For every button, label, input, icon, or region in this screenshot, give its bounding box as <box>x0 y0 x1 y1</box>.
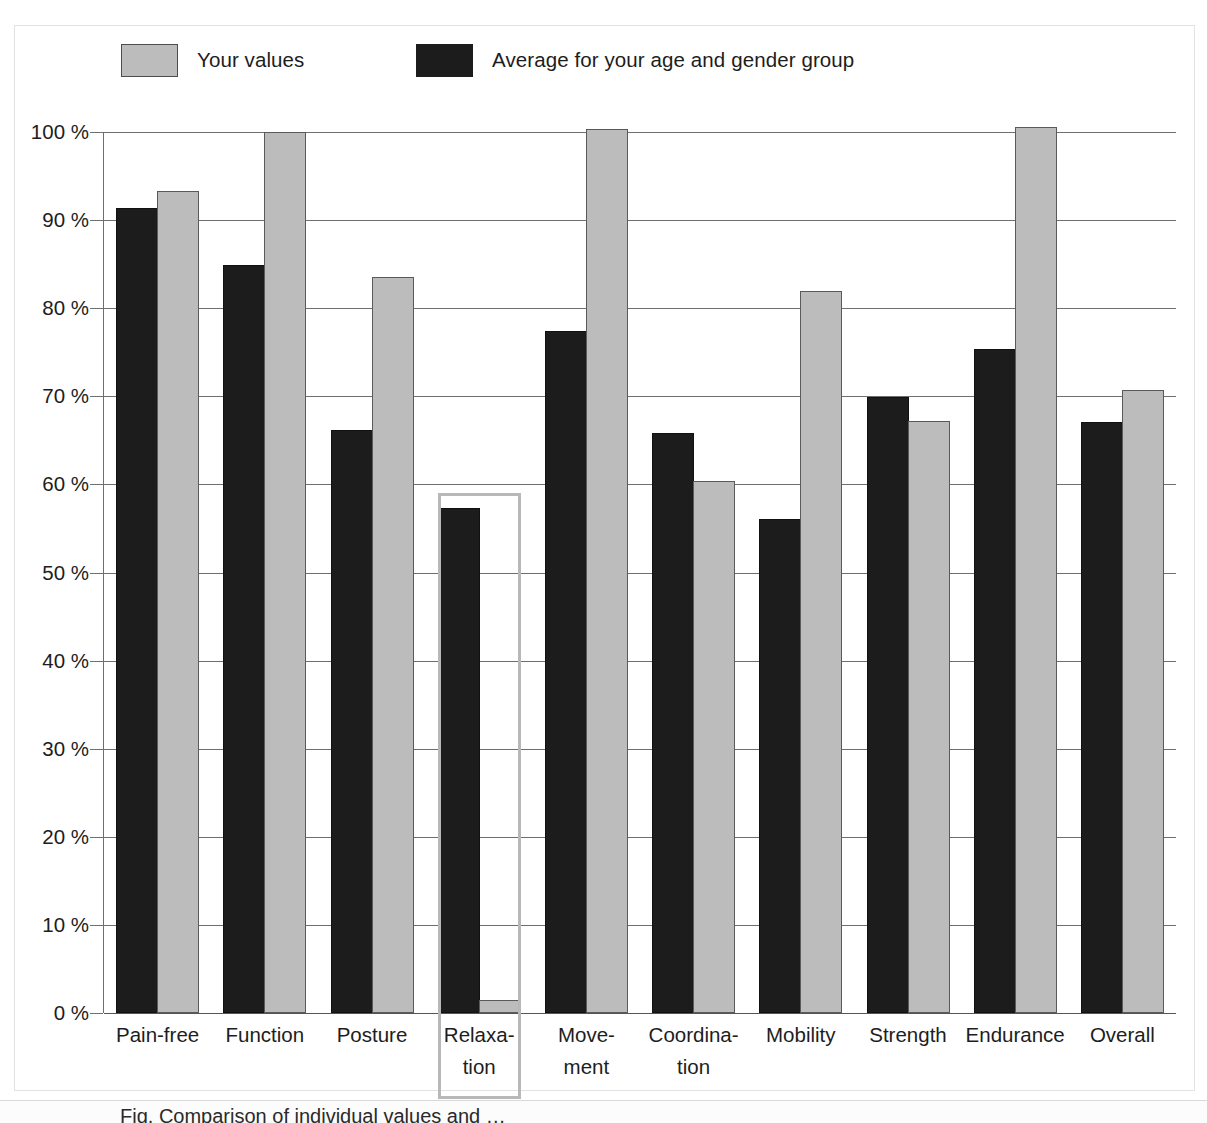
y-tick-mark-100 <box>90 132 103 133</box>
y-tick-label-0: 0 % <box>9 1001 89 1025</box>
x-tick-label-painfree: Pain-free <box>104 1019 211 1051</box>
y-tick-label-30: 30 % <box>9 737 89 761</box>
bar-movement-average <box>545 331 587 1013</box>
y-tick-mark-0 <box>90 1013 103 1014</box>
caption-strip: Fig. Comparison of individual values and… <box>0 1100 1207 1123</box>
x-tick-label-movement: Move- ment <box>533 1019 640 1083</box>
x-tick-label-mobility: Mobility <box>747 1019 854 1051</box>
legend-swatch-black-icon <box>416 44 473 77</box>
bar-mobility-your <box>800 291 842 1013</box>
chart-figure: Your values Average for your age and gen… <box>14 25 1195 1091</box>
y-tick-mark-30 <box>90 749 103 750</box>
chart-legend: Your values Average for your age and gen… <box>15 26 1194 92</box>
legend-label-your-values: Your values <box>197 48 304 72</box>
bar-mobility-average <box>759 519 801 1013</box>
y-tick-mark-70 <box>90 396 103 397</box>
legend-label-average: Average for your age and gender group <box>492 48 854 72</box>
y-tick-label-20: 20 % <box>9 825 89 849</box>
y-tick-label-40: 40 % <box>9 649 89 673</box>
x-tick-label-function: Function <box>211 1019 318 1051</box>
bar-function-your <box>264 132 306 1013</box>
bar-painfree-average <box>116 208 158 1013</box>
y-tick-label-50: 50 % <box>9 561 89 585</box>
y-tick-mark-40 <box>90 661 103 662</box>
bar-posture-average <box>331 430 373 1013</box>
bar-posture-your <box>372 277 414 1013</box>
legend-entry-your-values: Your values <box>121 43 304 77</box>
bar-strength-average <box>867 397 909 1013</box>
y-tick-label-80: 80 % <box>9 296 89 320</box>
x-tick-label-endurance: Endurance <box>962 1019 1069 1051</box>
x-tick-label-coordination: Coordina- tion <box>640 1019 747 1083</box>
caption-text: Fig. Comparison of individual values and… <box>120 1105 506 1123</box>
bar-coordination-average <box>652 433 694 1013</box>
y-tick-mark-60 <box>90 484 103 485</box>
y-tick-mark-50 <box>90 573 103 574</box>
bar-endurance-your <box>1015 127 1057 1013</box>
bar-movement-your <box>586 129 628 1013</box>
x-axis-tick-labels: Pain-freeFunctionPostureRelaxa- tionMove… <box>104 1019 1176 1099</box>
legend-swatch-gray-icon <box>121 44 178 77</box>
bar-overall-your <box>1122 390 1164 1013</box>
y-tick-label-60: 60 % <box>9 472 89 496</box>
y-tick-mark-10 <box>90 925 103 926</box>
y-tick-mark-90 <box>90 220 103 221</box>
bar-painfree-your <box>157 191 199 1013</box>
bar-coordination-your <box>693 481 735 1013</box>
x-tick-label-overall: Overall <box>1069 1019 1176 1051</box>
y-tick-mark-80 <box>90 308 103 309</box>
gridline-0 <box>104 1013 1176 1014</box>
bar-function-average <box>223 265 265 1013</box>
plot-area <box>104 132 1176 1013</box>
y-tick-label-10: 10 % <box>9 913 89 937</box>
x-tick-label-posture: Posture <box>318 1019 425 1051</box>
legend-entry-average: Average for your age and gender group <box>416 43 854 77</box>
y-tick-label-100: 100 % <box>9 120 89 144</box>
bar-overall-average <box>1081 422 1123 1013</box>
bar-strength-your <box>908 421 950 1013</box>
y-tick-mark-20 <box>90 837 103 838</box>
y-tick-label-70: 70 % <box>9 384 89 408</box>
y-tick-label-90: 90 % <box>9 208 89 232</box>
x-tick-label-relaxation: Relaxa- tion <box>426 1019 533 1083</box>
bar-relaxation-average <box>438 508 480 1013</box>
x-tick-label-strength: Strength <box>854 1019 961 1051</box>
bar-endurance-average <box>974 349 1016 1013</box>
bar-relaxation-your <box>479 1000 521 1013</box>
